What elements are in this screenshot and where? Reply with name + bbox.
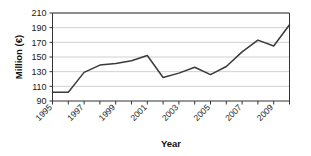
y-tick-label: 150 <box>31 52 46 62</box>
line-chart: 90110130150170190210 1995199719992001200… <box>0 0 311 156</box>
chart-canvas: 90110130150170190210 1995199719992001200… <box>0 0 311 156</box>
y-tick-label: 210 <box>31 8 46 18</box>
y-tick-label: 190 <box>31 23 46 33</box>
chart-background <box>0 0 311 156</box>
y-tick-label: 110 <box>32 82 46 92</box>
y-tick-labels: 90110130150170190210 <box>31 8 46 106</box>
x-axis-title: Year <box>161 138 181 149</box>
y-tick-label: 170 <box>31 38 46 48</box>
y-axis-title: Million (€) <box>13 35 24 79</box>
y-tick-label: 130 <box>31 67 46 77</box>
